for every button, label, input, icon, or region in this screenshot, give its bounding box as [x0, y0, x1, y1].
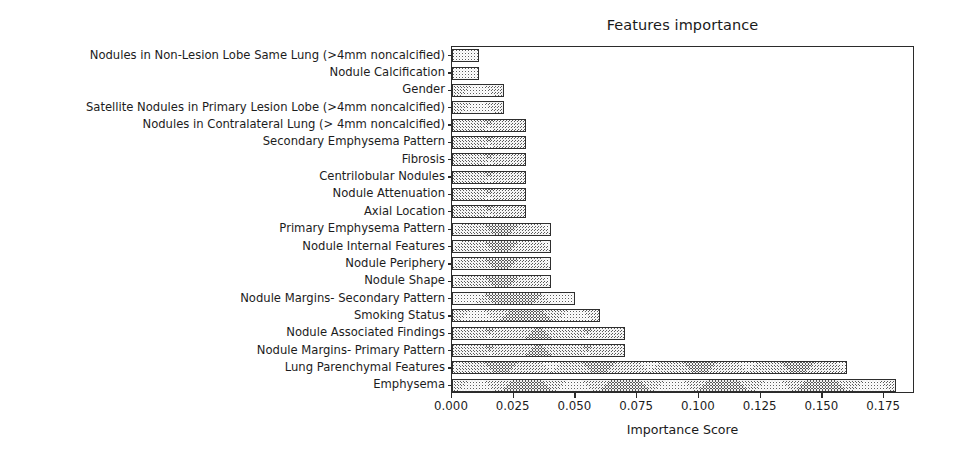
bar: [452, 309, 600, 322]
y-tick-label: Smoking Status: [354, 309, 445, 321]
x-tick-label: 0.075: [619, 399, 653, 413]
bar-row: [452, 342, 625, 359]
bar: [452, 136, 526, 149]
bar-row: [452, 134, 526, 151]
y-tick-label: Satellite Nodules in Primary Lesion Lobe…: [86, 101, 445, 113]
y-tick-label: Emphysema: [373, 378, 445, 390]
x-tick-mark: [821, 393, 822, 398]
x-tick-mark: [513, 393, 514, 398]
y-tick-mark: [448, 142, 453, 143]
y-tick-label: Nodule Margins- Secondary Pattern: [240, 292, 445, 304]
y-tick-label: Nodules in Non-Lesion Lobe Same Lung (>4…: [90, 49, 445, 61]
y-tick-label: Nodule Shape: [364, 274, 445, 286]
bar: [452, 344, 625, 357]
y-tick-mark: [448, 194, 453, 195]
bar-row: [452, 290, 575, 307]
bar-row: [452, 325, 625, 342]
bar: [452, 49, 479, 62]
y-tick-label: Nodule Periphery: [345, 257, 445, 269]
bar: [452, 327, 625, 340]
x-tick-label: 0.125: [743, 399, 777, 413]
x-tick-label: 0.000: [434, 399, 468, 413]
y-tick-mark: [448, 246, 453, 247]
y-tick-mark: [448, 72, 453, 73]
bar-row: [452, 99, 504, 116]
y-tick-label: Nodule Attenuation: [333, 187, 445, 199]
bar-row: [452, 377, 896, 394]
y-tick-mark: [448, 333, 453, 334]
bar-row: [452, 255, 551, 272]
bar: [452, 223, 551, 236]
bars-layer: [452, 47, 913, 392]
y-tick-mark: [448, 298, 453, 299]
y-tick-label: Secondary Emphysema Pattern: [263, 135, 445, 147]
y-tick-label: Fibrosis: [402, 153, 445, 165]
x-tick-mark: [760, 393, 761, 398]
bar-row: [452, 221, 551, 238]
y-tick-label: Nodule Calcification: [329, 66, 445, 78]
x-tick-label: 0.150: [805, 399, 839, 413]
bar: [452, 240, 551, 253]
y-axis-labels: Nodules in Non-Lesion Lobe Same Lung (>4…: [0, 46, 445, 393]
x-tick-mark: [698, 393, 699, 398]
bar-row: [452, 64, 479, 81]
x-axis-label: Importance Score: [451, 422, 914, 437]
bar-row: [452, 359, 847, 376]
bar: [452, 205, 526, 218]
x-tick-label: 0.050: [558, 399, 592, 413]
y-tick-label: Nodule Internal Features: [302, 240, 445, 252]
bar: [452, 119, 526, 132]
y-tick-mark: [448, 350, 453, 351]
bar-row: [452, 151, 526, 168]
bar: [452, 153, 526, 166]
bar: [452, 171, 526, 184]
y-tick-label: Gender: [402, 83, 445, 95]
bar-row: [452, 116, 526, 133]
bar: [452, 257, 551, 270]
y-tick-label: Nodule Associated Findings: [286, 326, 445, 338]
y-tick-mark: [448, 315, 453, 316]
x-tick-mark: [883, 393, 884, 398]
bar-row: [452, 273, 551, 290]
bar: [452, 188, 526, 201]
y-tick-mark: [448, 107, 453, 108]
x-tick-mark: [574, 393, 575, 398]
plot-area: [451, 46, 914, 393]
y-tick-mark: [448, 159, 453, 160]
bar-row: [452, 203, 526, 220]
bar-row: [452, 82, 504, 99]
bar-row: [452, 47, 479, 64]
features-importance-figure: Features importance Nodules in Non-Lesio…: [0, 0, 953, 460]
y-tick-label: Primary Emphysema Pattern: [279, 222, 445, 234]
bar: [452, 361, 847, 374]
chart-title: Features importance: [451, 17, 914, 33]
y-tick-mark: [448, 176, 453, 177]
y-tick-mark: [448, 385, 453, 386]
bar: [452, 379, 896, 392]
y-tick-label: Axial Location: [364, 205, 445, 217]
bar: [452, 275, 551, 288]
y-tick-mark: [448, 211, 453, 212]
y-tick-mark: [448, 124, 453, 125]
y-tick-mark: [448, 263, 453, 264]
y-tick-mark: [448, 55, 453, 56]
y-tick-mark: [448, 281, 453, 282]
x-tick-mark: [451, 393, 452, 398]
x-axis-ticks: 0.0000.0250.0500.0750.1000.1250.1500.175: [451, 393, 914, 423]
x-tick-mark: [636, 393, 637, 398]
bar-row: [452, 168, 526, 185]
x-tick-label: 0.100: [681, 399, 715, 413]
bar: [452, 292, 575, 305]
y-tick-label: Lung Parenchymal Features: [285, 361, 445, 373]
bar: [452, 84, 504, 97]
bar-row: [452, 307, 600, 324]
bar: [452, 67, 479, 80]
y-tick-label: Nodules in Contralateral Lung (> 4mm non…: [142, 118, 445, 130]
x-tick-label: 0.175: [866, 399, 900, 413]
y-tick-mark: [448, 90, 453, 91]
x-tick-label: 0.025: [496, 399, 530, 413]
bar: [452, 101, 504, 114]
y-tick-mark: [448, 229, 453, 230]
y-tick-label: Centrilobular Nodules: [319, 170, 445, 182]
y-tick-mark: [448, 367, 453, 368]
